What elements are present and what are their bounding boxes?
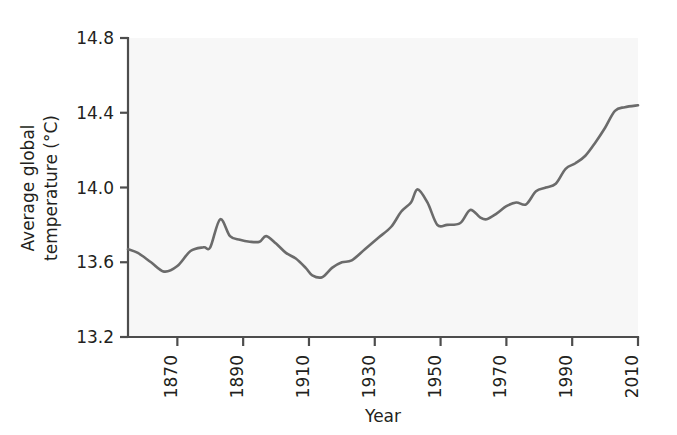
y-tick-label: 14.4 <box>76 103 114 123</box>
global-temperature-chart: 13.213.614.014.414.8 1870189019101930195… <box>0 0 677 435</box>
x-axis-title: Year <box>364 406 401 426</box>
chart-canvas: 13.213.614.014.414.8 1870189019101930195… <box>0 0 677 435</box>
x-tick-label: 1910 <box>293 355 313 398</box>
y-axis-tick-labels: 13.213.614.014.414.8 <box>76 28 114 347</box>
y-tick-label: 14.8 <box>76 28 114 48</box>
x-axis-tick-labels: 18701890191019301950197019902010 <box>161 355 642 398</box>
y-axis-title-line2: temperature (°C) <box>41 115 61 261</box>
y-tick-label: 13.6 <box>76 252 114 272</box>
x-tick-label: 1930 <box>359 355 379 398</box>
y-axis-title-line1: Average global <box>18 124 38 251</box>
plot-background <box>128 38 638 337</box>
y-tick-label: 13.2 <box>76 327 114 347</box>
x-tick-label: 1890 <box>227 355 247 398</box>
x-tick-label: 1970 <box>490 355 510 398</box>
y-tick-label: 14.0 <box>76 178 114 198</box>
x-tick-label: 1950 <box>425 355 445 398</box>
x-tick-label: 1870 <box>161 355 181 398</box>
y-axis-ticks <box>120 38 128 337</box>
x-tick-label: 1990 <box>556 355 576 398</box>
x-axis-ticks <box>177 337 638 346</box>
x-tick-label: 2010 <box>622 355 642 398</box>
